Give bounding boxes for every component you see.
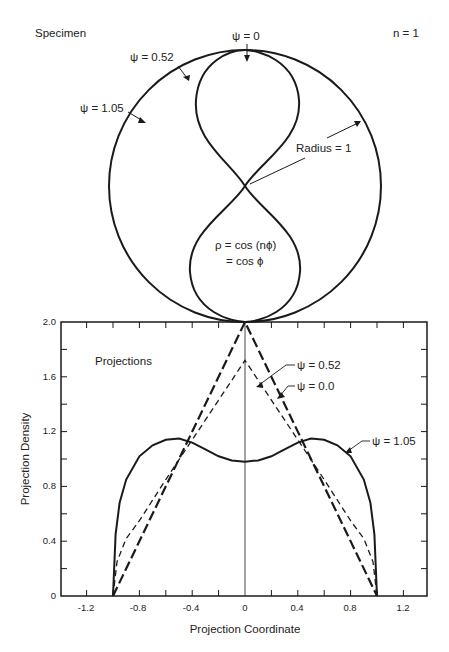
y-tick-labels: 0 0.4 0.8 1.2 1.6 2.0 [43, 316, 56, 601]
arrowhead-icon [183, 75, 190, 81]
psi-052-arrow [178, 66, 187, 78]
n-label: n = 1 [393, 27, 419, 39]
svg-text:1.2: 1.2 [396, 602, 409, 613]
leader-psi-105 [348, 441, 370, 451]
legend-psi-052: ψ = 0.52 [297, 359, 341, 371]
svg-text:-1.2: -1.2 [78, 602, 94, 613]
svg-text:0.8: 0.8 [343, 602, 356, 613]
x-axis-title: Projection Coordinate [190, 623, 301, 635]
svg-text:2.0: 2.0 [43, 316, 56, 327]
specimen-title: Specimen [35, 27, 86, 39]
radius-arrow [327, 122, 360, 138]
svg-text:0: 0 [242, 602, 247, 613]
svg-text:1.2: 1.2 [43, 425, 56, 436]
psi-0-label: ψ = 0 [232, 30, 260, 42]
legend-psi-0: ψ = 0.0 [297, 380, 334, 392]
psi-052-label: ψ = 0.52 [130, 51, 174, 63]
specimen-panel: Specimen n = 1 ψ = 0 ψ = 0.52 ψ = 1.05 R… [35, 27, 419, 322]
specimen-curve [190, 50, 300, 322]
svg-text:0.4: 0.4 [290, 602, 303, 613]
leader-psi-052 [259, 365, 295, 385]
x-tick-labels: -1.2 -0.8 -0.4 0 0.4 0.8 1.2 [78, 602, 410, 613]
arrowhead-icon [244, 55, 250, 62]
svg-text:-0.4: -0.4 [183, 602, 199, 613]
projections-chart: 0 0.4 0.8 1.2 1.6 2.0 -1.2 -0.8 -0.4 0 0… [19, 316, 427, 635]
legend-psi-105: ψ = 1.05 [372, 435, 416, 447]
arrowhead-icon [345, 447, 352, 453]
arrowhead-icon [138, 117, 146, 123]
formula-line2: = cos ϕ [226, 255, 263, 267]
figure: Specimen n = 1 ψ = 0 ψ = 0.52 ψ = 1.05 R… [0, 0, 449, 652]
y-axis-title: Projection Density [19, 412, 31, 505]
svg-text:1.6: 1.6 [43, 371, 56, 382]
svg-text:-0.8: -0.8 [130, 602, 146, 613]
radius-label: Radius = 1 [296, 142, 351, 154]
psi-105-label: ψ = 1.05 [80, 102, 124, 114]
chart-title: Projections [95, 355, 152, 367]
svg-text:0.4: 0.4 [43, 535, 56, 546]
formula-line1: ρ = cos (nϕ) [215, 239, 276, 251]
svg-text:0.8: 0.8 [43, 480, 56, 491]
svg-text:0: 0 [51, 590, 56, 601]
